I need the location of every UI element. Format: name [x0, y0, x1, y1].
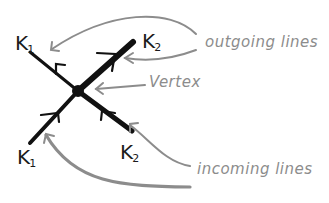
label-incoming-k2: K2	[120, 142, 138, 164]
line-outgoing-k2	[78, 42, 133, 91]
label-subscript: 2	[132, 152, 138, 165]
label-subscript: 2	[154, 41, 160, 54]
annotation-vertex: Vertex	[149, 75, 201, 90]
label-outgoing-k2: K2	[142, 31, 160, 53]
line-outgoing-k1	[30, 52, 78, 91]
label-letter: K	[15, 31, 27, 55]
label-subscript: 1	[29, 157, 35, 170]
annotation-incoming-lines: incoming lines	[197, 162, 313, 177]
vertex-dot	[72, 85, 84, 97]
annotation-arrow-incoming-k1	[46, 135, 190, 187]
label-incoming-k1: K1	[17, 147, 35, 169]
label-letter: K	[142, 29, 154, 53]
label-outgoing-k1: K1	[15, 33, 33, 55]
label-subscript: 1	[27, 43, 33, 56]
label-letter: K	[120, 140, 132, 164]
annotation-arrow-outgoing-k1	[52, 17, 196, 49]
annotation-arrow-incoming-k2	[130, 125, 190, 166]
annotation-outgoing-lines: outgoing lines	[205, 35, 318, 50]
annotation-arrow-vertex	[96, 85, 145, 89]
annotation-arrow-outgoing-k2	[125, 50, 196, 60]
label-letter: K	[17, 145, 29, 169]
